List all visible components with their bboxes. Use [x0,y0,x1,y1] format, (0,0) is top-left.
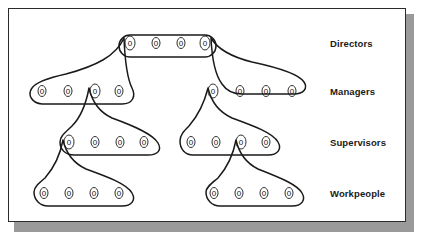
row-label-directors: Directors [330,38,373,49]
row-label-workpeople: Workpeople [330,188,385,199]
row-label-managers: Managers [330,86,375,97]
row-label-supervisors: Supervisors [330,137,386,148]
figure-page: 0000000000000000000000000000 Directors M… [0,0,422,237]
